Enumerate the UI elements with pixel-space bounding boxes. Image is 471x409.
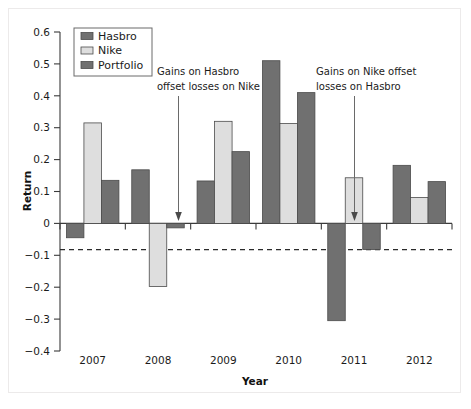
bar-hasbro-2012 <box>393 165 411 223</box>
bar-portfolio-2012 <box>428 182 446 224</box>
bar-portfolio-2010 <box>297 93 315 224</box>
y-tick-label: −0.2 <box>25 281 51 293</box>
legend-swatch-hasbro <box>81 33 93 40</box>
y-tick-label: 0.1 <box>33 185 50 197</box>
x-axis-ticks <box>60 223 452 229</box>
y-tick-label: −0.4 <box>25 345 51 357</box>
annotation-left-line1: Gains on Hasbro <box>157 66 239 77</box>
legend-swatch-portfolio <box>81 62 93 69</box>
bar-nike-2008 <box>149 223 167 286</box>
legend-label-portfolio: Portfolio <box>98 59 144 72</box>
legend-swatch-nike <box>81 47 93 54</box>
legend-label-nike: Nike <box>98 44 122 57</box>
y-tick-label: 0.3 <box>33 121 50 133</box>
x-tick-label-2010: 2010 <box>275 354 302 366</box>
y-tick-label: 0.5 <box>33 58 50 70</box>
chart-svg: 0.60.50.40.30.20.10−0.1−0.2−0.3−0.4 Retu… <box>0 0 471 409</box>
bar-portfolio-2009 <box>232 152 250 224</box>
chart-figure: 0.60.50.40.30.20.10−0.1−0.2−0.3−0.4 Retu… <box>0 0 471 409</box>
annotation-right-line2: losses on Hasbro <box>316 81 401 92</box>
bar-nike-2010 <box>280 124 298 224</box>
y-tick-label: 0.4 <box>33 90 50 102</box>
bar-hasbro-2008 <box>132 170 150 224</box>
bar-series-group <box>66 61 445 321</box>
annotation-right-line1: Gains on Nike offset <box>316 66 416 77</box>
legend-label-hasbro: Hasbro <box>98 30 137 43</box>
bar-portfolio-2011 <box>363 223 381 249</box>
bar-nike-2012 <box>411 198 429 224</box>
x-tick-label-2012: 2012 <box>406 354 433 366</box>
x-axis-title: Year <box>241 375 269 387</box>
y-tick-label: 0 <box>43 217 50 229</box>
y-tick-label: 0.6 <box>33 26 50 38</box>
x-tick-label-2009: 2009 <box>210 354 237 366</box>
bar-nike-2007 <box>84 123 102 223</box>
x-tick-label-2011: 2011 <box>341 354 368 366</box>
bar-hasbro-2009 <box>197 181 215 223</box>
annotation-left-arrowhead <box>175 212 182 221</box>
y-tick-label: −0.1 <box>25 249 51 261</box>
bar-hasbro-2010 <box>262 61 280 224</box>
bar-hasbro-2011 <box>328 223 346 320</box>
chart-legend: HasbroNikePortfolio <box>74 28 152 76</box>
bar-portfolio-2008 <box>167 223 185 227</box>
bar-nike-2009 <box>215 121 233 223</box>
y-tick-label: −0.3 <box>25 313 51 325</box>
x-tick-label-2007: 2007 <box>79 354 106 366</box>
annotation-left-line2: offset losses on Nike <box>157 81 260 92</box>
y-axis-title: Return <box>21 171 33 211</box>
bar-hasbro-2007 <box>66 223 84 237</box>
y-tick-label: 0.2 <box>33 153 50 165</box>
bar-portfolio-2007 <box>101 180 119 223</box>
x-tick-label-2008: 2008 <box>145 354 172 366</box>
x-axis-labels: 200720082009201020112012 <box>79 354 432 366</box>
